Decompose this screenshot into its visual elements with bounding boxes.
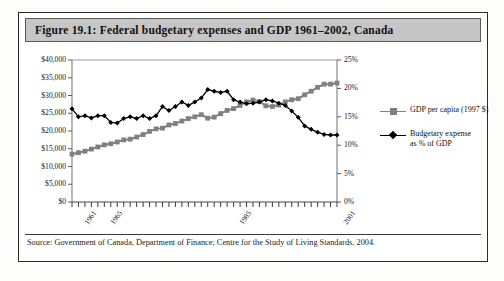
y-axis-right-tick-label: 5% [344,169,374,178]
legend-label-budget-line2: as % of GDP [410,139,452,148]
legend-label-budget: Budgetary expenseas % of GDP [406,129,471,149]
y-axis-left-tick-label: $15,000 [24,144,66,153]
y-axis-right-tick-label: 20% [344,83,374,92]
source-divider [25,234,481,235]
legend-item-budget: Budgetary expenseas % of GDP [380,129,504,149]
y-axis-right-tick-label: 10% [344,140,374,149]
y-axis-left-tick-label: $10,000 [24,162,66,171]
page-title: Figure 19.1: Federal budgetary expenses … [26,24,393,36]
diamond-marker-icon [388,130,396,138]
chart-region: $0$5,000$10,000$15,000$20,000$25,000$30,… [25,50,481,230]
legend-swatch-gdp [380,106,406,116]
y-axis-left-tick-label: $40,000 [24,55,66,64]
legend-item-gdp: GDP per capita (1997 $) [380,105,504,116]
y-axis-left-tick-label: $35,000 [24,73,66,82]
y-axis-right-tick-label: 15% [344,112,374,121]
y-axis-left-tick-label: $20,000 [24,126,66,135]
y-axis-right-tick-label: 25% [344,55,374,64]
y-axis-left-tick-label: $5,000 [24,179,66,188]
figure-title-bar: Figure 19.1: Federal budgetary expenses … [25,18,481,42]
legend-label-gdp: GDP per capita (1997 $) [406,105,488,115]
y-axis-left-tick-label: $0 [24,197,66,206]
y-axis-left-tick-label: $30,000 [24,91,66,100]
y-axis-left-tick-label: $25,000 [24,108,66,117]
figure-root: Figure 19.1: Federal budgetary expenses … [0,0,504,281]
source-note: Source: Government of Canada, Department… [27,238,483,247]
legend-swatch-budget [380,130,406,140]
y-axis-right-tick-label: 0% [344,197,374,206]
legend-label-budget-line1: Budgetary expense [410,129,471,138]
square-marker-icon [390,108,397,115]
chart-legend: GDP per capita (1997 $) Budgetary expens… [380,105,504,162]
